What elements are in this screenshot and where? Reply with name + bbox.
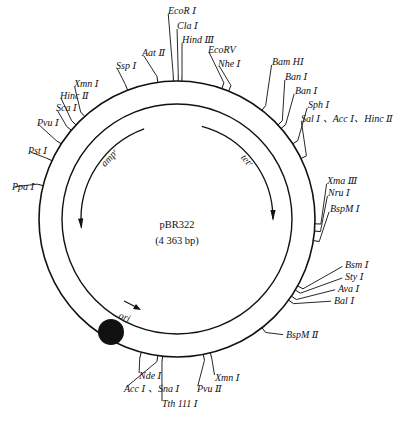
site-label: Sph Ⅰ: [308, 99, 331, 110]
site-label: Nhe Ⅰ: [217, 58, 242, 69]
site-leader: [266, 65, 272, 106]
site-label: BspM Ⅰ: [330, 203, 361, 214]
site-label: Acc Ⅰ 、Sna Ⅰ: [123, 383, 180, 394]
site-label: Ban Ⅰ: [295, 85, 319, 96]
site-leader: [282, 80, 285, 121]
site-leader: [177, 29, 178, 75]
site-tick: [67, 126, 72, 130]
site-label: Tth 111 Ⅰ: [162, 398, 199, 409]
site-tick: [293, 141, 298, 144]
site-label: Nde Ⅰ: [138, 370, 163, 381]
site-tick: [162, 356, 163, 362]
restriction-site: Pst Ⅰ: [27, 145, 52, 161]
site-tick: [289, 300, 294, 304]
restriction-site: BspM Ⅱ: [262, 328, 319, 340]
restriction-site: Ssp Ⅰ: [116, 60, 137, 90]
site-tick: [262, 106, 266, 111]
restriction-site: Aat Ⅱ: [141, 47, 165, 82]
site-leader: [220, 67, 231, 86]
site-tick: [278, 121, 282, 125]
site-leader: [168, 14, 173, 75]
gene-amp_r: ampʳ: [78, 129, 144, 230]
site-tick: [157, 356, 158, 362]
arrowhead-icon: [270, 210, 275, 221]
site-label: Pvu Ⅱ: [196, 383, 222, 394]
site-label: Pst Ⅰ: [27, 145, 48, 156]
site-label: BspM Ⅱ: [286, 329, 319, 340]
plasmid-size: (4 363 bp): [155, 235, 199, 247]
gene-label: tetʳ: [239, 152, 256, 169]
site-leader: [301, 122, 306, 156]
site-tick: [203, 354, 204, 360]
site-label: Bam HⅠ: [272, 56, 305, 67]
site-label: Aat Ⅱ: [141, 47, 165, 58]
site-tick: [81, 112, 85, 116]
site-tick: [210, 353, 211, 359]
restriction-site: Hind Ⅲ: [181, 34, 215, 81]
site-label: Ava Ⅰ: [337, 283, 360, 294]
site-label: Bsm Ⅰ: [345, 259, 370, 270]
site-leader: [319, 212, 329, 242]
site-tick: [262, 328, 266, 333]
restriction-site: Cla Ⅰ: [177, 20, 199, 81]
restriction-site: Nhe Ⅰ: [217, 58, 242, 91]
site-leader: [293, 301, 331, 303]
site-tick: [281, 125, 286, 129]
site-label: Pvu Ⅰ: [36, 117, 60, 128]
site-tick: [301, 156, 306, 159]
site-tick: [157, 76, 158, 82]
site-label: Xmn Ⅰ: [73, 78, 100, 89]
site-tick: [313, 241, 319, 242]
site-tick: [314, 231, 320, 232]
site-tick: [125, 85, 127, 91]
site-label: Xmn Ⅰ: [214, 372, 241, 383]
restriction-sites: EcoR ⅠCla ⅠHind ⅢEcoRVNhe ⅠBam HⅠBan ⅠBa…: [11, 5, 393, 409]
ori-arrowhead-icon: [133, 304, 141, 310]
site-leader: [286, 94, 295, 125]
site-label: Sty Ⅰ: [345, 271, 365, 282]
site-tick: [295, 290, 300, 293]
restriction-site: Pvu Ⅰ: [36, 117, 61, 144]
site-label: Sal Ⅰ 、Acc Ⅰ、Hinc Ⅱ: [301, 113, 393, 124]
site-label: Bal Ⅰ: [334, 295, 355, 306]
site-label: Nru Ⅰ: [327, 187, 351, 198]
arrowhead-icon: [78, 218, 83, 229]
gene-arc: [202, 126, 273, 219]
site-leader: [144, 56, 157, 77]
gene-tet_r: tetʳ: [202, 126, 276, 221]
site-leader: [117, 69, 125, 85]
site-tick: [46, 158, 51, 161]
plasmid-map: EcoR ⅠCla ⅠHind ⅢEcoRVNhe ⅠBam HⅠBan ⅠBa…: [0, 0, 396, 422]
restriction-site: Xma Ⅲ: [315, 175, 358, 224]
site-leader: [296, 290, 335, 300]
plasmid-name: pBR322: [159, 219, 194, 230]
site-label: Ssp Ⅰ: [116, 60, 137, 71]
site-leader: [300, 278, 342, 293]
site-label: Ban Ⅰ: [285, 71, 309, 82]
ori-label: ori: [117, 310, 132, 324]
gene-label: ampʳ: [98, 146, 120, 168]
site-tick: [37, 184, 43, 185]
restriction-site: Sal Ⅰ 、Acc Ⅰ、Hinc Ⅱ: [301, 113, 393, 159]
ori-filled-circle-icon: [98, 319, 124, 345]
site-tick: [72, 121, 76, 125]
site-tick: [56, 141, 61, 144]
site-tick: [291, 296, 296, 299]
site-tick: [222, 83, 224, 89]
site-tick: [140, 352, 142, 358]
site-label: Cla Ⅰ: [177, 20, 199, 31]
site-label: EcoR Ⅰ: [167, 5, 197, 16]
site-tick: [298, 286, 303, 289]
restriction-site: Bal Ⅰ: [289, 295, 356, 306]
gene-arrows: ampʳtetʳ: [78, 126, 276, 229]
site-label: Xma Ⅲ: [326, 175, 358, 186]
restriction-site: Ppa Ⅰ: [11, 181, 43, 192]
restriction-site: BspM Ⅰ: [313, 203, 361, 242]
site-label: EcoRV: [207, 44, 237, 55]
site-leader: [266, 332, 283, 334]
site-label: Hinc Ⅱ: [59, 90, 89, 101]
restriction-site: Xmn Ⅰ: [210, 353, 240, 383]
site-tick: [229, 85, 231, 91]
site-label: Ppa Ⅰ: [11, 181, 36, 192]
